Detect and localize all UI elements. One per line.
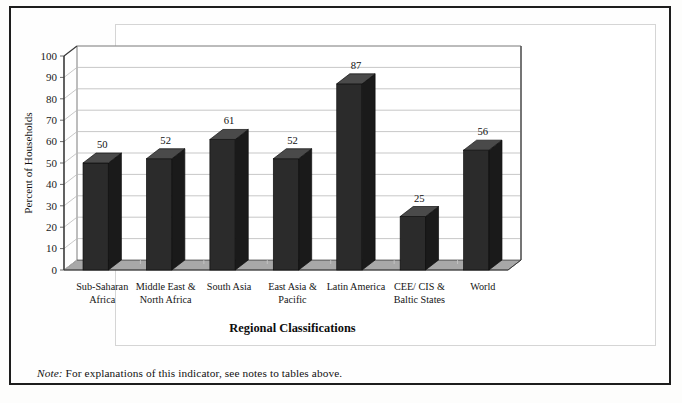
x-axis-category-label: Middle East & [136,281,196,292]
y-axis-tick-label: 0 [52,264,58,276]
y-axis-tick-label: 80 [46,93,58,105]
bar-side-face [362,74,375,270]
bar-value-label: 52 [287,135,298,146]
bar-front-face [464,150,489,270]
bar [273,149,311,270]
tick-connector [64,153,77,163]
bar-side-face [235,129,248,270]
x-axis-category-label: Sub-Saharan [76,281,128,292]
page: 0102030405060708090100 50526152872556 Su… [0,0,682,403]
bar-value-label: 56 [477,126,488,137]
tick-connector [64,110,77,120]
y-axis-tick-label: 100 [41,50,58,62]
bar-side-face [426,207,439,271]
tick-connector [64,217,77,227]
bar-side-face [108,153,121,270]
x-axis-category-label: Africa [89,294,115,305]
x-axis-category-label: Latin America [327,281,386,292]
y-axis-tick-label: 60 [46,135,58,147]
bar-side-face [299,149,312,270]
bar-front-face [210,139,235,270]
y-axis-tick-label: 70 [46,114,58,126]
bar [83,153,121,270]
tick-connector [64,89,77,99]
top-left-depth-edge [64,46,77,56]
y-axis-tick-label: 20 [46,221,58,233]
y-axis-tick-label: 30 [46,200,58,212]
bar-value-label: 25 [414,193,425,204]
tick-connector [64,239,77,249]
note-text: For explanations of this indicator, see … [63,367,343,379]
x-axis-category-label: East Asia & [268,281,317,292]
x-axis-category-label: Baltic States [394,294,445,305]
bar [337,74,375,270]
y-axis-tick-label: 10 [46,242,58,254]
bar-front-face [273,159,298,270]
y-axis-tick-label: 40 [46,178,58,190]
note-label: Note: [37,367,63,379]
bar [464,140,502,270]
y-axis-ticks: 0102030405060708090100 [41,46,78,276]
x-axis-category-label: South Asia [207,281,252,292]
bar-value-label: 61 [224,115,235,126]
x-axis-category-label: North Africa [140,294,192,305]
bar [146,149,184,270]
bar [400,207,438,271]
bar-side-face [172,149,185,270]
bar-chart: 0102030405060708090100 50526152872556 Su… [20,14,660,354]
tick-connector [64,174,77,184]
bar-value-label: 52 [160,135,171,146]
tick-connector [64,196,77,206]
bar-front-face [337,84,362,270]
tick-connector [64,67,77,77]
bar-value-label: 50 [97,139,108,150]
bar-front-face [400,217,425,271]
x-axis-category-label: World [470,281,495,292]
bar [210,129,248,270]
y-axis-tick-label: 90 [46,71,58,83]
y-axis-title: Percent of Households [22,112,34,213]
x-axis-title: Regional Classifications [229,321,355,335]
figure-outer-frame: 0102030405060708090100 50526152872556 Su… [9,6,671,385]
y-axis-tick-label: 50 [46,157,58,169]
x-axis-category-label: CEE/ CIS & [394,281,445,292]
x-axis-category-label: Pacific [278,294,307,305]
bar-value-label: 87 [351,60,362,71]
bar-side-face [489,140,502,270]
bar-front-face [146,159,171,270]
bar-front-face [83,163,108,270]
tick-connector [64,132,77,142]
figure-note: Note: For explanations of this indicator… [37,366,342,380]
